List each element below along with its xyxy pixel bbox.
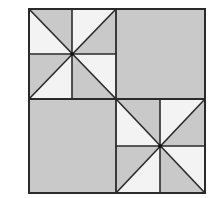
center-dot xyxy=(158,144,162,148)
solid-block-top-right xyxy=(116,9,205,99)
center-dot xyxy=(70,52,74,56)
pinwheel-block-bottom-right xyxy=(116,99,205,193)
quilt-diagram xyxy=(0,0,216,198)
pinwheel-block-top-left xyxy=(29,9,116,99)
solid-block-bottom-left xyxy=(29,99,116,193)
